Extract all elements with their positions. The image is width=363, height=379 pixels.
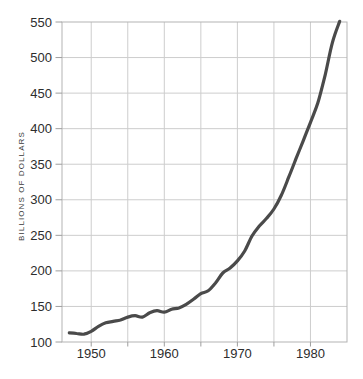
plot-frame xyxy=(62,22,347,342)
chart-canvas: 1001502002503003504004505005501950196019… xyxy=(0,0,363,379)
y-tick-label: 300 xyxy=(30,192,52,207)
y-tick-label: 100 xyxy=(30,335,52,350)
y-tick-label: 200 xyxy=(30,263,52,278)
line-chart-figure: BILLIONS OF DOLLARS 10015020025030035040… xyxy=(0,0,363,379)
x-tick-label: 1980 xyxy=(296,346,325,361)
y-tick-label: 450 xyxy=(30,86,52,101)
x-tick-label: 1950 xyxy=(77,346,106,361)
y-tick-label: 550 xyxy=(30,15,52,30)
series-line xyxy=(69,21,339,334)
x-tick-label: 1960 xyxy=(150,346,179,361)
x-tick-label: 1970 xyxy=(223,346,252,361)
y-tick-label: 350 xyxy=(30,157,52,172)
y-tick-label: 250 xyxy=(30,228,52,243)
y-tick-label: 500 xyxy=(30,50,52,65)
y-tick-label: 400 xyxy=(30,121,52,136)
y-tick-label: 150 xyxy=(30,299,52,314)
